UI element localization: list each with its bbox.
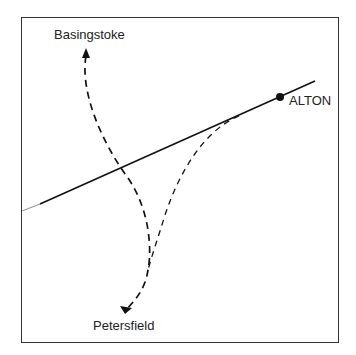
label-petersfield: Petersfield xyxy=(93,318,154,333)
dashed-route-alton-branch xyxy=(148,116,239,270)
alton-dot-icon xyxy=(276,93,284,101)
label-alton: ALTON xyxy=(289,93,331,108)
main-line-faint-segment xyxy=(22,204,40,211)
main-line xyxy=(40,81,315,204)
dashed-route-basingstoke-petersfield xyxy=(85,56,150,310)
route-diagram xyxy=(0,0,356,355)
label-basingstoke: Basingstoke xyxy=(54,27,125,42)
arrow-down-icon xyxy=(120,306,132,314)
arrow-up-icon xyxy=(82,48,90,58)
